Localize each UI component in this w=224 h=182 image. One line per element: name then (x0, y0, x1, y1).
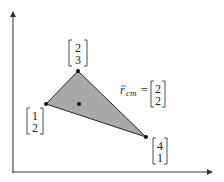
centroid-point (77, 102, 81, 106)
centroid-y: 2 (155, 94, 161, 108)
centroid-diagram: 2 3 1 2 4 1 r cm = 2 2 (0, 0, 224, 182)
centroid-symbol: r (120, 83, 125, 97)
vertex-label-2: 2 3 (69, 40, 87, 67)
vertex-point-2 (76, 69, 80, 73)
vertex-3-y: 1 (157, 151, 163, 165)
vertex-2-y: 3 (75, 53, 81, 67)
vertex-point-1 (44, 102, 48, 106)
vertex-label-3: 4 1 (153, 138, 167, 165)
vertex-1-y: 2 (32, 121, 38, 135)
centroid-subscript: cm (126, 88, 137, 98)
centroid-label: r cm = 2 2 (120, 81, 165, 108)
triangle (46, 71, 146, 137)
vertex-label-1: 1 2 (27, 108, 43, 135)
vertex-point-3 (144, 135, 148, 139)
centroid-equals: = (141, 83, 148, 97)
